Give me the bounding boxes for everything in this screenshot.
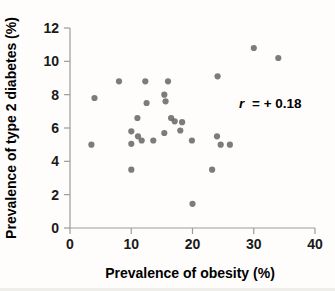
y-tick-label: 12 xyxy=(43,20,59,36)
data-point xyxy=(165,78,171,84)
x-tick-label: 20 xyxy=(185,236,201,252)
data-point xyxy=(163,98,169,104)
data-point xyxy=(134,115,140,121)
y-tick-label: 6 xyxy=(51,120,59,136)
data-point xyxy=(142,78,148,84)
y-tick-label: 0 xyxy=(51,220,59,236)
scatter-plot-figure: 010203040024681012 Prevalence of type 2 … xyxy=(0,0,335,291)
x-tick-label: 0 xyxy=(66,236,74,252)
data-point xyxy=(179,119,185,125)
data-point xyxy=(91,95,97,101)
data-points xyxy=(88,45,281,207)
chart-canvas: 010203040024681012 Prevalence of type 2 … xyxy=(0,0,335,291)
x-tick-label: 10 xyxy=(123,236,139,252)
x-tick-label: 40 xyxy=(307,236,323,252)
data-point xyxy=(189,137,195,143)
data-point xyxy=(251,45,257,51)
data-point xyxy=(128,141,134,147)
axis-ticks: 010203040024681012 xyxy=(43,20,323,252)
y-tick-label: 2 xyxy=(51,187,59,203)
correlation-annotation: r = + 0.18 xyxy=(239,96,302,111)
data-point xyxy=(150,137,156,143)
data-point xyxy=(139,137,145,143)
data-point xyxy=(161,130,167,136)
data-point xyxy=(161,92,167,98)
data-point xyxy=(215,73,221,79)
y-tick-label: 4 xyxy=(51,153,59,169)
data-point xyxy=(214,133,220,139)
data-point xyxy=(177,127,183,133)
y-axis-title: Prevalence of type 2 diabetes (%) xyxy=(3,17,19,239)
data-point xyxy=(218,142,224,148)
correlation-symbol: r xyxy=(239,96,245,111)
x-axis-title: Prevalence of obesity (%) xyxy=(105,265,275,281)
correlation-value: = + 0.18 xyxy=(252,96,302,111)
data-point xyxy=(189,201,195,207)
data-point xyxy=(275,55,281,61)
data-point xyxy=(144,100,150,106)
data-point xyxy=(128,128,134,134)
data-point xyxy=(128,167,134,173)
x-tick-label: 30 xyxy=(246,236,262,252)
data-point xyxy=(227,142,233,148)
data-point xyxy=(209,167,215,173)
data-point xyxy=(116,78,122,84)
data-point xyxy=(88,142,94,148)
y-tick-label: 8 xyxy=(51,87,59,103)
y-tick-label: 10 xyxy=(43,53,59,69)
data-point xyxy=(172,118,178,124)
